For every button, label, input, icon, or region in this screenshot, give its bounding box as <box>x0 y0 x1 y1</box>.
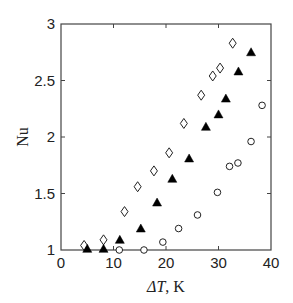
triangle-marker <box>214 110 223 118</box>
y-axis-label: Nu <box>14 127 31 147</box>
circle-marker <box>141 247 148 254</box>
triangle-marker <box>221 94 230 102</box>
circle-marker <box>175 225 182 232</box>
x-tick-label: 0 <box>57 254 65 271</box>
diamond-marker <box>209 71 216 81</box>
circle-marker <box>214 189 221 196</box>
diamond-marker <box>134 182 141 192</box>
y-tick-label: 1.5 <box>34 185 55 202</box>
y-tick-label: 2.5 <box>34 72 55 89</box>
diamond-marker <box>166 148 173 158</box>
y-axis-ticks: 11.522.53 <box>34 15 271 258</box>
triangle-marker <box>99 244 108 252</box>
x-tick-label: 30 <box>210 254 227 271</box>
triangle-marker <box>234 67 243 75</box>
triangle-marker <box>168 174 177 182</box>
circle-marker <box>259 102 266 109</box>
triangle-marker <box>201 122 210 130</box>
data-points <box>81 38 266 253</box>
diamond-marker <box>229 38 236 48</box>
diamond-marker <box>100 235 107 245</box>
y-tick-label: 2 <box>47 128 55 145</box>
y-tick-label: 3 <box>47 15 55 32</box>
circle-marker <box>235 160 242 167</box>
circle-marker <box>248 138 255 145</box>
diamond-marker <box>121 207 128 217</box>
diamond-marker <box>198 90 205 100</box>
circle-marker <box>194 212 201 219</box>
diamond-marker <box>150 166 157 176</box>
triangle-marker <box>153 198 162 206</box>
triangle-marker <box>247 48 256 56</box>
x-axis-label-symbol: ΔT <box>146 278 166 295</box>
triangle-marker <box>185 154 194 162</box>
x-tick-label: 20 <box>158 254 175 271</box>
diamond-marker <box>180 118 187 128</box>
circle-marker <box>116 247 123 254</box>
x-axis-label: ΔT, K <box>146 278 185 295</box>
triangle-marker <box>136 224 145 232</box>
scatter-chart: 010203040 11.522.53 ΔT, K Nu <box>0 0 293 303</box>
circle-marker <box>226 163 233 170</box>
circle-marker <box>160 239 167 246</box>
x-tick-label: 10 <box>105 254 122 271</box>
axes-box <box>61 24 271 250</box>
diamond-marker <box>217 63 224 73</box>
x-axis-ticks: 010203040 <box>57 24 280 271</box>
x-tick-label: 40 <box>263 254 280 271</box>
triangle-marker <box>115 235 124 243</box>
x-axis-label-unit: , K <box>165 278 185 295</box>
y-tick-label: 1 <box>47 241 55 258</box>
plot-frame <box>61 24 271 250</box>
